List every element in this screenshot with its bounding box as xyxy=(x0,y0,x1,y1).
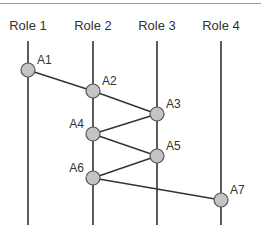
edge-A5-A6 xyxy=(93,156,157,178)
role-label-r2: Role 2 xyxy=(74,18,112,33)
swimlane-diagram: Role 1Role 2Role 3Role 4A1A2A3A4A5A6A7 xyxy=(0,0,261,239)
activity-node-a2 xyxy=(86,84,100,98)
role-label-r1: Role 1 xyxy=(9,18,47,33)
edges-group xyxy=(28,70,221,200)
nodes-group xyxy=(21,63,228,207)
activity-label-a2: A2 xyxy=(102,74,117,88)
activity-label-a4: A4 xyxy=(69,117,84,131)
activity-label-a5: A5 xyxy=(166,139,181,153)
activity-label-a1: A1 xyxy=(37,53,52,67)
role-label-r4: Role 4 xyxy=(202,18,240,33)
activity-node-a7 xyxy=(214,193,228,207)
activity-label-a3: A3 xyxy=(166,97,181,111)
activity-node-a5 xyxy=(150,149,164,163)
edge-A4-A5 xyxy=(93,134,157,156)
activity-node-a1 xyxy=(21,63,35,77)
activity-node-a3 xyxy=(150,107,164,121)
edge-A1-A2 xyxy=(28,70,93,91)
activity-node-a6 xyxy=(86,171,100,185)
lanes-group xyxy=(28,41,221,225)
edge-A3-A4 xyxy=(93,114,157,134)
activity-label-a7: A7 xyxy=(230,183,245,197)
activity-label-a6: A6 xyxy=(69,161,84,175)
edge-A2-A3 xyxy=(93,91,157,114)
labels-group: Role 1Role 2Role 3Role 4A1A2A3A4A5A6A7 xyxy=(9,18,245,197)
activity-node-a4 xyxy=(86,127,100,141)
role-label-r3: Role 3 xyxy=(138,18,176,33)
